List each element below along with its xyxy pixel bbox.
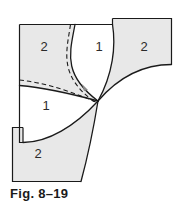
region-top-right-fill [98,19,172,102]
figure-drawing: 2 1 2 1 2 [0,0,187,187]
top-notch-edge [75,19,113,25]
figure-container: 2 1 2 1 2 Fig. 8–19 [0,0,187,211]
region-label-top-right: 2 [140,39,147,54]
figure-caption: Fig. 8–19 [10,186,68,201]
region-label-center-left: 1 [42,98,49,113]
region-label-top-middle: 1 [95,39,102,54]
region-label-bottom-left: 2 [34,146,41,161]
region-label-top-left: 2 [40,39,47,54]
